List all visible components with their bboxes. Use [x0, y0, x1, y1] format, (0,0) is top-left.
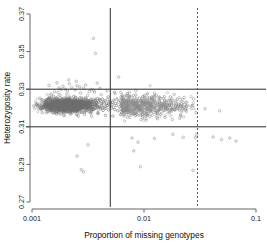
- data-point: [229, 137, 232, 140]
- y-axis-title: Heterozygosity rate: [2, 72, 12, 144]
- y-axis-tick-label: 0.37: [17, 7, 26, 21]
- data-point: [106, 98, 109, 101]
- data-point: [192, 102, 194, 104]
- x-axis-tick-label: 0.01: [137, 214, 151, 223]
- axis-labels-layer: 0.270.290.310.330.350.370.0010.010.1Prop…: [2, 7, 261, 240]
- data-point: [173, 93, 176, 96]
- data-point: [86, 94, 89, 97]
- data-point: [149, 84, 151, 86]
- y-axis-tick-label: 0.29: [17, 157, 26, 171]
- data-point: [113, 99, 116, 102]
- data-point: [195, 111, 198, 114]
- data-point: [79, 86, 82, 89]
- data-point: [68, 79, 71, 82]
- data-point: [107, 109, 110, 112]
- data-point: [79, 92, 82, 95]
- data-point: [50, 93, 53, 96]
- data-point: [149, 115, 152, 118]
- y-axis-tick-label: 0.33: [17, 82, 26, 96]
- y-axis-tick-label: 0.31: [17, 120, 26, 134]
- data-point: [131, 137, 134, 140]
- data-point: [137, 141, 140, 144]
- data-point: [82, 171, 85, 174]
- data-point: [88, 90, 91, 93]
- scatter-plot-figure: 0.270.290.310.330.350.370.0010.010.1Prop…: [0, 0, 267, 245]
- data-point: [53, 91, 56, 94]
- data-point: [92, 37, 95, 40]
- data-point: [48, 84, 51, 87]
- plot-canvas: 0.270.290.310.330.350.370.0010.010.1Prop…: [0, 0, 267, 245]
- data-point: [76, 155, 79, 158]
- data-point: [182, 136, 185, 139]
- data-point: [36, 98, 38, 100]
- data-point: [190, 108, 192, 110]
- data-point: [62, 85, 65, 88]
- data-point: [35, 100, 37, 102]
- data-point: [220, 138, 223, 141]
- data-point: [235, 140, 238, 143]
- data-point: [164, 115, 166, 117]
- data-point: [117, 76, 120, 79]
- data-point: [46, 93, 48, 95]
- data-point: [134, 89, 137, 92]
- data-point: [166, 91, 168, 93]
- data-point: [104, 114, 107, 117]
- x-axis-tick-label: 0.001: [23, 214, 41, 223]
- x-axis-title: Proportion of missing genotypes: [84, 230, 204, 240]
- data-point: [158, 115, 160, 117]
- data-point: [120, 91, 123, 94]
- data-points-layer: [32, 37, 237, 173]
- data-point: [123, 120, 125, 122]
- data-point: [90, 115, 93, 118]
- data-point: [84, 84, 87, 87]
- x-axis-tick-label: 0.1: [251, 214, 261, 223]
- y-axis-tick-label: 0.27: [17, 195, 26, 209]
- data-point: [101, 98, 104, 101]
- data-point: [190, 96, 192, 98]
- data-point: [218, 110, 221, 113]
- data-point: [140, 118, 142, 120]
- data-point: [117, 110, 120, 113]
- data-point: [57, 91, 60, 94]
- data-point: [142, 119, 144, 121]
- y-axis-tick-label: 0.35: [17, 45, 26, 59]
- data-point: [107, 96, 110, 99]
- data-point: [145, 119, 147, 121]
- data-point: [153, 137, 156, 140]
- data-point: [193, 108, 195, 110]
- data-point: [181, 98, 183, 100]
- data-point: [133, 150, 136, 153]
- data-point: [212, 136, 215, 139]
- data-point: [37, 111, 39, 113]
- data-point: [76, 85, 79, 88]
- data-point: [96, 82, 99, 85]
- data-point: [139, 165, 142, 168]
- data-point: [182, 116, 184, 118]
- data-point: [66, 93, 69, 96]
- data-point: [178, 96, 180, 98]
- data-point: [112, 115, 115, 118]
- data-point: [116, 98, 119, 101]
- data-point: [106, 89, 109, 92]
- data-point: [75, 80, 78, 83]
- data-point: [70, 86, 73, 89]
- data-point: [66, 90, 69, 93]
- data-point: [87, 144, 90, 147]
- data-point: [192, 169, 195, 172]
- data-point: [80, 168, 83, 171]
- data-point: [113, 108, 116, 111]
- data-point: [100, 93, 103, 96]
- data-point: [68, 83, 71, 86]
- data-point: [204, 108, 207, 111]
- data-point: [94, 52, 97, 55]
- data-point: [171, 118, 174, 121]
- data-point: [153, 92, 156, 95]
- data-point: [56, 82, 59, 85]
- data-point: [192, 98, 195, 101]
- data-point: [170, 115, 172, 117]
- data-point: [172, 133, 175, 136]
- data-point: [194, 136, 197, 139]
